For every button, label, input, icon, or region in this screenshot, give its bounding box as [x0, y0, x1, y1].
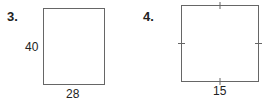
square-figure: [178, 2, 262, 85]
rectangle-figure: [44, 9, 105, 85]
figures: [0, 0, 271, 108]
